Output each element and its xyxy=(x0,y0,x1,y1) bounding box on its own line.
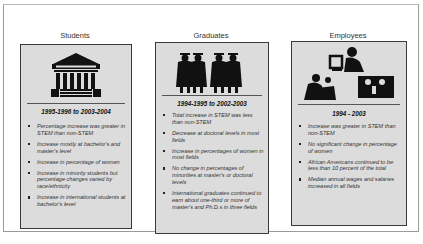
list-item: Increase in percentages of women in most… xyxy=(162,148,264,162)
list-item: Increase in minority students but percen… xyxy=(27,170,127,190)
bullet-list: Increase was greater in STEM than non-ST… xyxy=(298,123,402,194)
divider xyxy=(298,104,400,105)
bullet-icon xyxy=(163,167,165,169)
bullet-icon xyxy=(28,196,30,198)
column-title-employees: Employees xyxy=(291,31,405,40)
list-item: No change in percentages of minorities a… xyxy=(162,165,264,185)
bullet-icon xyxy=(163,150,165,152)
panel-employees: 1994 - 2003 Increase was greater in STEM… xyxy=(291,41,407,226)
list-item: Increase mostly at bachelor's and master… xyxy=(27,141,127,155)
list-item: Increase in percentage of women xyxy=(27,159,127,166)
bullet-icon xyxy=(28,143,30,145)
column-title-students: Students xyxy=(20,31,130,40)
list-item: African Americans continued to be less t… xyxy=(298,159,402,173)
bullet-icon xyxy=(299,161,301,163)
bullet-list: Total increase in STEM was less than non… xyxy=(162,112,264,215)
list-item: Median annual wages and salaries increas… xyxy=(298,176,402,190)
list-item: International graduates continued to ear… xyxy=(162,190,264,210)
bullet-list: Percentage increase was greater in STEM … xyxy=(27,123,127,212)
period-label: 1995-1996 to 2003-2004 xyxy=(21,108,131,115)
graduates-in-caps-icon xyxy=(156,47,268,97)
panel-graduates: 1994-1995 to 2002-2003 Total increase in… xyxy=(155,42,269,234)
column-title-graduates: Graduates xyxy=(155,31,267,40)
bullet-icon xyxy=(28,125,30,127)
bullet-icon xyxy=(299,143,301,145)
bullet-icon xyxy=(299,178,301,180)
bullet-icon xyxy=(28,172,30,174)
list-item: No significant change in percentage of w… xyxy=(298,141,402,155)
bullet-icon xyxy=(163,132,165,134)
period-label: 1994-1995 to 2002-2003 xyxy=(156,100,268,107)
list-item: Increase was greater in STEM than non-ST… xyxy=(298,123,402,137)
university-building-icon xyxy=(21,49,131,99)
divider xyxy=(27,103,125,104)
bullet-icon xyxy=(163,192,165,194)
period-label: 1994 - 2003 xyxy=(292,110,406,117)
list-item: Decrease at doctoral levels in most fiel… xyxy=(162,130,264,144)
divider xyxy=(162,95,262,96)
bullet-icon xyxy=(163,114,165,116)
list-item: Percentage increase was greater in STEM … xyxy=(27,123,127,137)
bullet-icon xyxy=(299,125,301,127)
panel-students: 1995-1996 to 2003-2004 Percentage increa… xyxy=(20,44,132,229)
workers-at-desks-icon xyxy=(292,44,406,102)
list-item: Increase in international students at ba… xyxy=(27,194,127,208)
list-item: Total increase in STEM was less than non… xyxy=(162,112,264,126)
bullet-icon xyxy=(28,161,30,163)
